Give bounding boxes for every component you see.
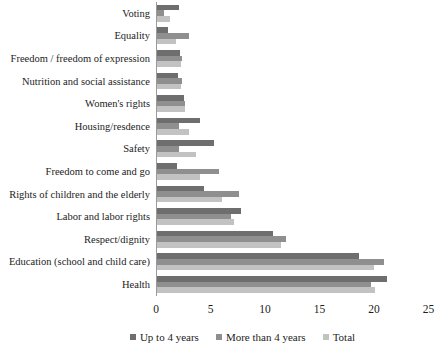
bar-total [157,242,281,248]
bar-group [156,253,440,270]
legend-item: Total [323,331,355,343]
legend-label: More than 4 years [226,331,306,343]
bar-group [156,118,440,135]
legend-swatch-icon [216,334,222,340]
category-label: Health [0,279,156,290]
category-label: Safety [0,143,156,154]
category-row: Respect/dignity [0,228,440,251]
bar-total [157,287,375,293]
category-row: Voting [0,2,440,25]
category-label: Labor and labor rights [0,211,156,222]
category-label: Respect/dignity [0,234,156,245]
x-tick-label: 25 [423,303,435,315]
category-row: Women's rights [0,92,440,115]
category-row: Health [0,273,440,296]
category-label: Housing/resdence [0,121,156,132]
category-label: Education (school and child care) [0,256,156,267]
bar-total [157,61,181,67]
category-label: Women's rights [0,98,156,109]
plot-area: VotingEqualityFreedom / freedom of expre… [0,2,440,296]
category-row: Housing/resdence [0,115,440,138]
bar-total [157,219,234,225]
bar-group [156,140,440,157]
bar-group [156,186,440,203]
bar-group [156,5,440,22]
category-row: Freedom / freedom of expression [0,47,440,70]
legend-swatch-icon [130,334,136,340]
category-label: Nutrition and social assistance [0,76,156,87]
legend-label: Total [333,331,355,343]
bar-group [156,231,440,248]
x-tick-label: 20 [368,303,380,315]
category-row: Safety [0,138,440,161]
bar-total [157,174,200,180]
x-tick-label: 5 [208,303,214,315]
category-label: Freedom to come and go [0,166,156,177]
x-tick-label: 0 [153,303,159,315]
bar-total [157,84,181,90]
legend-swatch-icon [323,334,329,340]
y-axis-line [156,2,157,296]
bar-group [156,208,440,225]
bar-group [156,27,440,44]
bar-total [157,39,176,45]
bar-group [156,50,440,67]
bar-group [156,276,440,293]
bar-group [156,163,440,180]
category-row: Nutrition and social assistance [0,70,440,93]
category-row: Education (school and child care) [0,251,440,274]
category-label: Rights of children and the elderly [0,189,156,200]
x-tick-label: 10 [259,303,271,315]
bar-total [157,197,222,203]
bar-total [157,265,374,271]
category-row: Labor and labor rights [0,205,440,228]
bar-group [156,95,440,112]
category-label: Equality [0,30,156,41]
bar-total [157,106,185,112]
category-row: Equality [0,25,440,48]
bar-group [156,73,440,90]
category-row: Rights of children and the elderly [0,183,440,206]
category-label: Voting [0,8,156,19]
category-label: Freedom / freedom of expression [0,53,156,64]
category-row: Freedom to come and go [0,160,440,183]
legend: Up to 4 yearsMore than 4 yearsTotal [45,331,440,343]
bar-total [157,16,170,22]
legend-item: More than 4 years [216,331,306,343]
legend-label: Up to 4 years [140,331,199,343]
legend-item: Up to 4 years [130,331,199,343]
horizontal-bar-chart: VotingEqualityFreedom / freedom of expre… [0,0,440,352]
bar-total [157,152,196,158]
x-tick-label: 15 [314,303,326,315]
bar-total [157,129,189,135]
